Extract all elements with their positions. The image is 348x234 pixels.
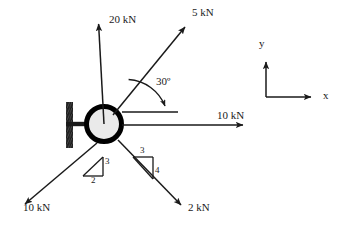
force-label-20kn: 20 kN bbox=[109, 14, 136, 25]
force-label-10kn-right: 10 kN bbox=[217, 110, 244, 121]
force-label-2kn-lower-right: 2 kN bbox=[188, 202, 210, 213]
slope-label-left-rise: 3 bbox=[105, 157, 110, 166]
slope-triangle-left bbox=[83, 157, 103, 176]
force-label-5kn: 5 kN bbox=[192, 7, 214, 18]
slope-label-right-rise: 4 bbox=[155, 166, 160, 175]
axis-label-y: y bbox=[259, 38, 265, 49]
axis-label-x: x bbox=[323, 90, 329, 101]
force-arrow-5kn-upper-right bbox=[113, 27, 185, 115]
slope-triangle-right bbox=[133, 157, 153, 179]
slope-label-right-run: 3 bbox=[140, 146, 145, 155]
diagram-vector-layer bbox=[0, 0, 348, 234]
force-arrow-2kn-lower-right bbox=[118, 140, 181, 205]
fixed-wall-support bbox=[66, 102, 87, 148]
angle-label-30-degrees: 30º bbox=[156, 76, 170, 87]
slope-label-left-run: 2 bbox=[91, 176, 96, 185]
free-body-diagram: 20 kN 5 kN 10 kN 10 kN 2 kN 30º 3 2 3 4 … bbox=[0, 0, 348, 234]
force-label-10kn-lower-left: 10 kN bbox=[23, 202, 50, 213]
coordinate-axes-indicator bbox=[266, 62, 311, 97]
